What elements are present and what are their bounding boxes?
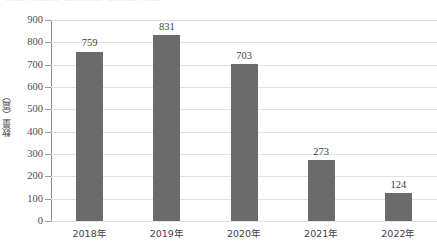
- y-axis-tick-700: [45, 65, 51, 66]
- y-axis-tick-0: [45, 221, 51, 222]
- y-axis-tick-200: [45, 176, 51, 177]
- y-axis-label-500: 500: [1, 104, 43, 114]
- y-axis-tick-600: [45, 87, 51, 88]
- y-axis-tick-300: [45, 154, 51, 155]
- y-axis-tick-100: [45, 199, 51, 200]
- x-axis-label-2018年: 2018年: [52, 228, 128, 239]
- bar-value-label-2019年: 831: [140, 21, 194, 32]
- x-axis-label-2019年: 2019年: [129, 228, 205, 239]
- y-axis-tick-800: [45, 42, 51, 43]
- bar-chart-figure: —— ——— ———— ——— —— 数量（篇） 010020030040050…: [0, 0, 437, 252]
- y-axis-label-600: 600: [1, 82, 43, 92]
- clipped-header-text: —— ——— ———— ——— ——: [6, 0, 426, 4]
- y-axis-label-200: 200: [1, 171, 43, 181]
- bar-value-label-2021年: 273: [294, 146, 348, 157]
- x-axis-label-2020年: 2020年: [206, 228, 282, 239]
- y-axis-tick-500: [45, 109, 51, 110]
- y-axis-label-800: 800: [1, 37, 43, 47]
- bar-2019年[interactable]: [153, 35, 180, 221]
- y-axis-label-900: 900: [1, 15, 43, 25]
- gridline-900: [51, 20, 437, 21]
- bar-value-label-2020年: 703: [217, 50, 271, 61]
- y-axis-label-400: 400: [1, 127, 43, 137]
- gridline-0: [51, 221, 437, 222]
- y-axis-tick-400: [45, 132, 51, 133]
- y-axis-tick-900: [45, 20, 51, 21]
- bar-value-label-2018年: 759: [63, 37, 117, 48]
- y-axis-tick-labels: 0100200300400500600700800900: [0, 0, 43, 252]
- x-axis-label-2022年: 2022年: [360, 228, 436, 239]
- x-axis-label-2021年: 2021年: [283, 228, 359, 239]
- bar-2021年[interactable]: [308, 160, 335, 221]
- bar-2020年[interactable]: [231, 64, 258, 221]
- bar-value-label-2022年: 124: [371, 179, 425, 190]
- y-axis-label-300: 300: [1, 149, 43, 159]
- y-axis-label-700: 700: [1, 60, 43, 70]
- y-axis-label-0: 0: [1, 216, 43, 226]
- bar-2022年[interactable]: [385, 193, 412, 221]
- y-axis-label-100: 100: [1, 194, 43, 204]
- bar-2018年[interactable]: [76, 52, 103, 222]
